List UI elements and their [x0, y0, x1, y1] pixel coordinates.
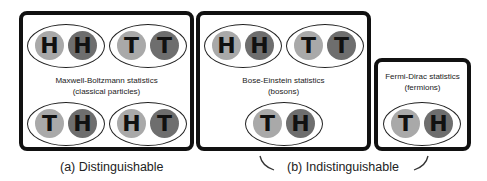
particle-light: T — [294, 31, 323, 60]
fermi-dirac-box: Fermi-Dirac statistics (fermions) T H — [374, 58, 471, 151]
fermi-label: Fermi-Dirac statistics (fermions) — [378, 71, 467, 93]
particle-light: T — [391, 109, 420, 138]
label-line2: (bosons) — [200, 86, 367, 97]
particle-pair: H H — [204, 24, 282, 68]
right-brace-icon — [410, 154, 430, 174]
particle-dark: H — [286, 109, 315, 138]
particle-dark: H — [245, 31, 274, 60]
particle-dark: H — [68, 31, 97, 60]
label-line2: (fermions) — [378, 82, 467, 93]
particle-dark: T — [150, 31, 179, 60]
caption-indistinguishable: (b) Indistinguishable — [287, 160, 399, 174]
label-line2: (classical particles) — [23, 86, 190, 97]
particle-light: H — [212, 31, 241, 60]
particle-pair: T T — [286, 24, 364, 68]
particle-pair: T T — [109, 24, 187, 68]
bose-label: Bose-Einstein statistics (bosons) — [200, 75, 367, 97]
particle-pair: T H — [245, 102, 323, 146]
particle-pair: T H — [383, 102, 461, 146]
label-line1: Maxwell-Boltzmann statistics — [23, 75, 190, 86]
label-line1: Bose-Einstein statistics — [200, 75, 367, 86]
particle-light: T — [117, 31, 146, 60]
particle-light: H — [35, 31, 64, 60]
particle-pair: T H — [27, 102, 105, 146]
particle-pair: H H — [27, 24, 105, 68]
particle-light: T — [35, 109, 64, 138]
particle-dark: T — [150, 109, 179, 138]
particle-dark: H — [68, 109, 97, 138]
caption-distinguishable: (a) Distinguishable — [60, 160, 164, 174]
left-brace-icon — [258, 154, 278, 174]
particle-light: T — [253, 109, 282, 138]
particle-dark: H — [424, 109, 453, 138]
maxwell-label: Maxwell-Boltzmann statistics (classical … — [23, 75, 190, 97]
label-line1: Fermi-Dirac statistics — [378, 71, 467, 82]
bose-einstein-box: H H T T Bose-Einstein statistics (bosons… — [196, 11, 371, 151]
particle-light: H — [117, 109, 146, 138]
particle-dark: T — [327, 31, 356, 60]
maxwell-boltzmann-box: H H T T Maxwell-Boltzmann statistics (cl… — [19, 11, 194, 151]
particle-pair: H T — [109, 102, 187, 146]
